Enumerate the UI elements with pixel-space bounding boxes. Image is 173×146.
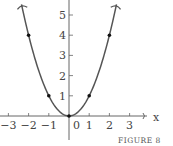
y-tick-label: 4 [59, 29, 66, 42]
x-tick-label: 2 [106, 119, 113, 132]
y-tick-label: 1 [59, 90, 66, 103]
data-point [87, 94, 91, 98]
x-axis-label: x [153, 111, 160, 124]
data-point [108, 33, 112, 37]
data-point [47, 94, 51, 98]
data-point [67, 114, 71, 118]
y-tick-label: 2 [59, 70, 66, 83]
y-tick-label: 5 [59, 9, 66, 22]
x-tick-label: 1 [86, 119, 93, 132]
data-point [27, 33, 31, 37]
x-tick-label: −1 [41, 119, 57, 132]
parabola-chart: −3−2−1012312345 x FIGURE 8 [0, 0, 173, 146]
tick-labels: −3−2−1012312345 [0, 9, 133, 132]
figure-caption: FIGURE 8 [118, 136, 161, 145]
x-tick-label: −2 [20, 119, 36, 132]
x-tick-label: −3 [0, 119, 16, 132]
y-tick-label: 3 [59, 49, 66, 62]
x-tick-label: 3 [126, 119, 133, 132]
x-tick-label: 0 [73, 119, 80, 132]
